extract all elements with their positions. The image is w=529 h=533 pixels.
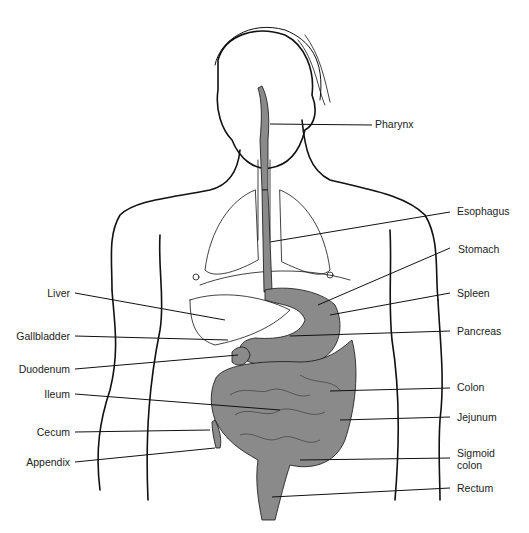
label-sigmoid: Sigmoid [457,447,495,459]
label-jejunum: Jejunum [457,411,497,423]
label-sigmoid-colon: colon [457,459,482,471]
label-ileum: Ileum [44,388,70,400]
label-rectum: Rectum [457,482,493,494]
label-appendix: Appendix [26,456,70,468]
label-duodenum: Duodenum [19,363,70,375]
label-pharynx: Pharynx [375,118,414,130]
label-colon: Colon [457,381,484,393]
label-cecum: Cecum [37,426,70,438]
label-liver: Liver [47,287,70,299]
label-pancreas: Pancreas [457,325,501,337]
label-esophagus: Esophagus [457,205,510,217]
anatomy-illustration [0,0,529,533]
label-spleen: Spleen [457,287,490,299]
label-gallbladder: Gallbladder [16,330,70,342]
label-stomach: Stomach [458,243,499,255]
